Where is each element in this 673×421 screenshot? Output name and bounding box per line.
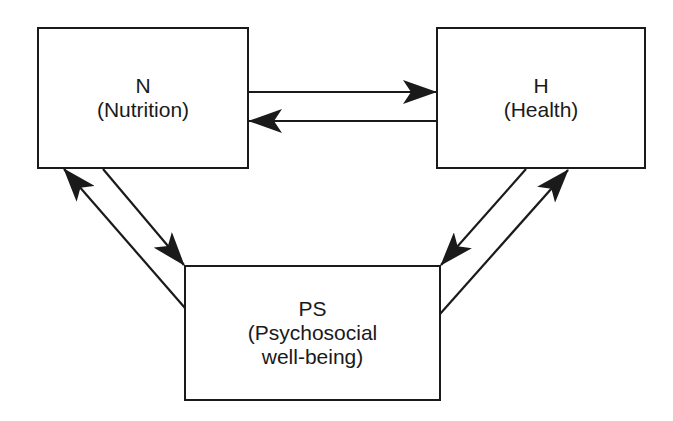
node-psychosocial-label-line2: well-being): [262, 345, 364, 369]
node-psychosocial-abbrev: PS: [298, 297, 326, 321]
node-nutrition-abbrev: N: [135, 74, 150, 98]
arrow-ps-to-h: [440, 170, 568, 314]
node-health: H (Health): [436, 27, 646, 169]
arrow-n-to-ps: [103, 169, 184, 265]
node-nutrition: N (Nutrition): [37, 27, 249, 169]
node-health-label: (Health): [504, 98, 579, 122]
node-psychosocial: PS (Psychosocial well-being): [184, 265, 441, 401]
node-psychosocial-label-line1: (Psychosocial: [248, 321, 378, 345]
arrow-ps-to-n: [64, 169, 185, 308]
arrow-h-to-ps: [441, 169, 526, 265]
node-health-abbrev: H: [533, 74, 548, 98]
node-nutrition-label: (Nutrition): [97, 98, 189, 122]
diagram-canvas: N (Nutrition) H (Health) PS (Psychosocia…: [0, 0, 673, 421]
